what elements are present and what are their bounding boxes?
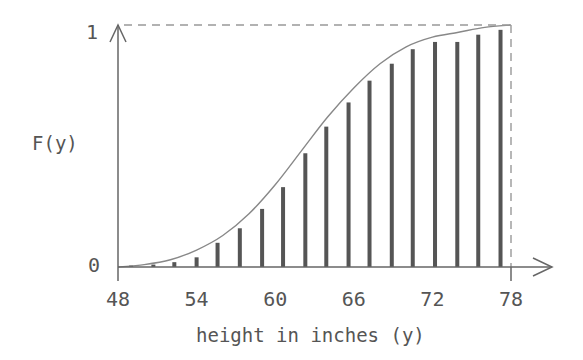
cdf-chart: 485460667278 1 0 F(y) height in inches (… xyxy=(0,0,583,360)
x-axis-label: height in inches (y) xyxy=(196,324,425,346)
x-tick-label-60: 60 xyxy=(263,287,287,311)
x-tick-label-66: 66 xyxy=(342,287,366,311)
bar-17 xyxy=(499,30,503,267)
bar-6 xyxy=(260,209,264,267)
x-tick-labels: 485460667278 xyxy=(106,287,523,311)
bar-7 xyxy=(281,187,285,267)
cdf-curve xyxy=(118,25,511,267)
x-tick-label-78: 78 xyxy=(499,287,523,311)
bar-14 xyxy=(433,42,437,267)
bar-9 xyxy=(324,127,328,267)
bar-16 xyxy=(476,35,480,267)
x-tick-label-72: 72 xyxy=(420,287,444,311)
y-tick-label-1: 1 xyxy=(86,20,98,44)
bar-5 xyxy=(238,228,242,267)
bar-13 xyxy=(411,49,415,267)
bar-10 xyxy=(347,102,351,267)
bar-4 xyxy=(216,243,220,267)
x-tick-label-48: 48 xyxy=(106,287,130,311)
y-tick-label-0: 0 xyxy=(88,253,100,277)
bar-3 xyxy=(195,257,199,267)
bars-group xyxy=(129,30,502,267)
y-axis-label: F(y) xyxy=(32,132,78,154)
bar-11 xyxy=(368,81,372,267)
x-tick-label-54: 54 xyxy=(185,287,209,311)
bar-12 xyxy=(390,64,394,267)
bar-8 xyxy=(303,153,307,267)
bar-15 xyxy=(455,42,459,267)
